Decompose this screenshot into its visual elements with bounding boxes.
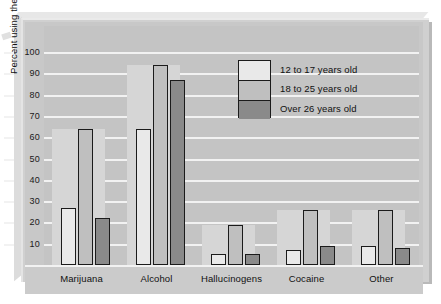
bar [245, 254, 260, 265]
bar-group [361, 26, 410, 265]
bar-group [136, 26, 185, 265]
x-axis-tick-label: Hallucinogens [194, 273, 269, 284]
x-axis-tick-label: Cocaine [269, 273, 344, 284]
y-axis-tick-mark [4, 201, 14, 203]
y-axis-tick-mark [4, 73, 14, 75]
y-axis-tick-label: 30 [30, 196, 40, 206]
bar [136, 129, 151, 265]
y-axis-tick-label: 100 [24, 47, 40, 57]
plot-area: 102030405060708090100 [44, 26, 419, 265]
legend-swatch [239, 61, 270, 80]
bar [170, 80, 185, 265]
y-axis-tick-mark [4, 95, 14, 97]
bar [95, 218, 110, 265]
y-axis-tick-label: 10 [30, 238, 40, 248]
y-axis-tick-mark [4, 116, 14, 118]
bar-group [286, 26, 335, 265]
bar [153, 65, 168, 265]
chart-screenshot: Percent using the drug 10203040506070809… [0, 0, 441, 304]
bar-group [61, 26, 110, 265]
y-axis-tick-mark [4, 159, 14, 161]
y-axis-title: Percent using the drug [8, 0, 19, 74]
x-axis-tick-label: Other [344, 273, 419, 284]
bar [61, 208, 76, 266]
bar [78, 129, 93, 265]
legend-label: 18 to 25 years old [280, 83, 357, 94]
legend-swatch-box [238, 60, 271, 118]
bar [378, 210, 393, 265]
bar [320, 246, 335, 265]
legend-swatch [239, 80, 270, 99]
x-axis-tick-label: Alcohol [119, 273, 194, 284]
y-axis-tick-mark [4, 244, 14, 246]
y-axis-tick-label: 70 [30, 110, 40, 120]
y-axis-tick-label: 20 [30, 217, 40, 227]
bar [286, 250, 301, 265]
legend-label: Over 26 years old [280, 103, 357, 114]
y-axis-tick-label: 80 [30, 89, 40, 99]
y-axis-tick-label: 90 [30, 68, 40, 78]
y-axis-tick-mark [4, 52, 14, 54]
bars-layer [44, 26, 419, 265]
bar [361, 246, 376, 265]
y-axis-tick-label: 60 [30, 132, 40, 142]
y-axis-tick-mark [4, 222, 14, 224]
y-axis-tick-mark [4, 137, 14, 139]
y-axis-tick-label: 40 [30, 174, 40, 184]
x-axis-band: MarijuanaAlcoholHallucinogensCocaineOthe… [25, 265, 423, 294]
legend-label: 12 to 17 years old [280, 64, 357, 75]
x-axis-tick-label: Marijuana [44, 273, 119, 284]
bar [395, 248, 410, 265]
bar [228, 225, 243, 265]
bar [303, 210, 318, 265]
y-axis-tick-mark [4, 180, 14, 182]
y-axis-tick-label: 50 [30, 153, 40, 163]
legend-swatch [239, 100, 270, 119]
bar [211, 254, 226, 265]
